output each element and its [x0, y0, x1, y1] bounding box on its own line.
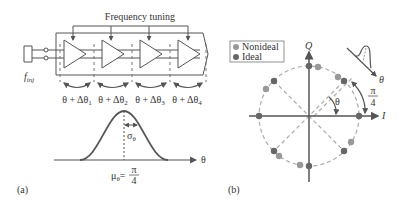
- mean-numerator: π: [131, 164, 136, 175]
- q-axis-label: Q: [305, 40, 313, 51]
- amplifier-2: [102, 40, 124, 68]
- theta-angle-label: θ: [335, 96, 340, 107]
- phase-distribution: θ σθ μθ= π 4: [54, 111, 206, 186]
- stage-4-phase: θ + Δθ4: [172, 94, 202, 107]
- panel-a-label: (a): [17, 184, 28, 196]
- phase-arcs: [64, 83, 202, 88]
- panel-a: Frequency tuning finj: [17, 11, 208, 196]
- legend-ideal-marker: [233, 54, 239, 60]
- amplifier-4: [178, 40, 200, 68]
- legend: Nonideal Ideal: [230, 41, 284, 62]
- sigma-label: σθ: [127, 130, 136, 143]
- finj-label: finj: [24, 71, 34, 84]
- stage-2-phase: θ + Δθ2: [98, 94, 128, 107]
- pi-over-4-arc: [352, 82, 365, 113]
- inset-theta-label: θ: [379, 74, 384, 85]
- stage-3-phase: θ + Δθ3: [135, 94, 165, 107]
- amplifier-1: [64, 40, 86, 68]
- theta-axis-label: θ: [201, 154, 206, 165]
- amplifier-3: [140, 40, 162, 68]
- frequency-tuning-label: Frequency tuning: [105, 11, 175, 22]
- step-numerator: π: [370, 85, 375, 96]
- panel-b-label: (b): [228, 184, 240, 196]
- stage-1-phase: θ + Δθ1: [62, 94, 92, 107]
- legend-nonideal-marker: [233, 44, 239, 50]
- phase-distribution-inset: θ: [347, 46, 384, 85]
- injection-port: [24, 46, 48, 62]
- i-axis-label: I: [381, 110, 386, 121]
- mean-label: μθ=: [111, 170, 126, 183]
- panel-b: Nonideal Ideal I Q: [228, 40, 386, 196]
- step-denominator: 4: [371, 97, 376, 108]
- mean-denominator: 4: [132, 175, 137, 186]
- figure-canvas: Frequency tuning finj: [0, 0, 402, 209]
- legend-ideal: Ideal: [242, 51, 262, 62]
